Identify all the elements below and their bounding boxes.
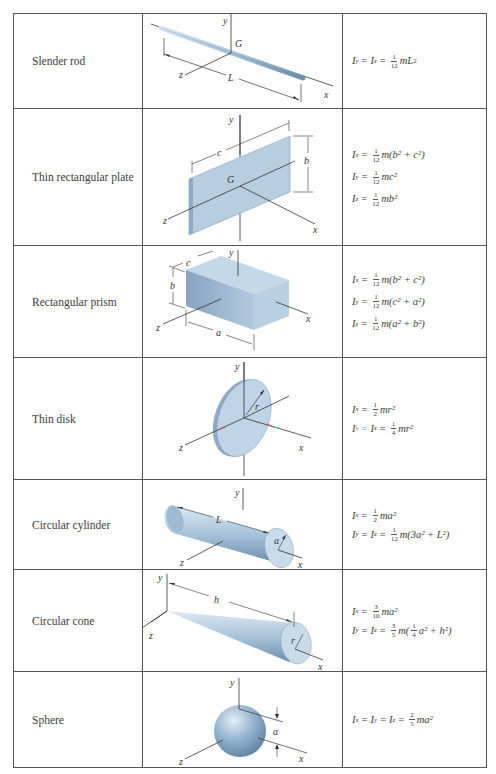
table-row-sphere: Sphere y x z a Ix <box>14 672 486 767</box>
formula-cell: Ix= 112 m(b² + c²) Iy= 112 m(c² + a²) Iz… <box>343 246 486 357</box>
formula-line: Ix= 310 ma² <box>352 602 451 621</box>
svg-text:x: x <box>317 661 323 672</box>
svg-text:z: z <box>179 557 184 568</box>
formula-line: Ix= 112 m(b² + c²) <box>352 144 425 166</box>
formula-cell: Ix= 12 ma² Iy = Iz = 112 m(3a² + L²) <box>343 480 486 569</box>
formula-block: Ix = Iy = Iz = 25 ma² <box>352 709 433 731</box>
formula-cell: Iy = Iz = 112 mL2 <box>343 14 486 108</box>
svg-text:c: c <box>186 257 191 268</box>
formula-block: Ix= 112 m(b² + c²) Iy= 112 mc² Iz= 112 m… <box>352 144 425 210</box>
formula-block: Ix= 310 ma² Iy = Iz = 35 m( 14 a² + h²) <box>352 602 451 640</box>
table-row-thin-disk: Thin disk y z x r <box>14 358 486 480</box>
circular-cylinder-diagram: y L x a z <box>143 480 343 570</box>
formula-block: Ix= 12 ma² Iy = Iz = 112 m(3a² + L²) <box>352 506 449 544</box>
svg-text:L: L <box>227 72 234 83</box>
thin-plate-diagram: y G z x c b <box>143 109 343 246</box>
shape-name: Thin disk <box>32 413 76 425</box>
svg-text:y: y <box>222 15 228 26</box>
shape-name-cell: Slender rod <box>14 14 143 108</box>
svg-text:x: x <box>305 313 311 324</box>
svg-text:y: y <box>234 361 240 372</box>
formula-line: Iy = Iz = 112 mL2 <box>352 50 417 72</box>
formula-line: Iy= 112 mc² <box>352 166 425 188</box>
figure-cell: y x z b c a <box>143 246 343 357</box>
svg-text:G: G <box>235 38 242 49</box>
svg-text:y: y <box>229 677 235 688</box>
svg-text:z: z <box>155 322 160 333</box>
figure-cell: y z x r <box>143 358 343 479</box>
formula-cell: Ix= 12 mr² Iy = Iz = 14 mr² <box>343 358 486 479</box>
slender-rod-diagram: y G z L x <box>143 14 343 109</box>
svg-text:z: z <box>178 442 183 453</box>
svg-text:z: z <box>162 215 167 226</box>
shape-name: Slender rod <box>32 55 85 67</box>
svg-text:c: c <box>217 147 222 158</box>
svg-text:a: a <box>274 535 279 546</box>
svg-text:G: G <box>227 174 234 185</box>
svg-text:r: r <box>291 635 295 646</box>
svg-text:z: z <box>178 69 183 80</box>
svg-text:x: x <box>298 442 304 453</box>
formula-line: Iy = Iz = 14 mr² <box>352 419 413 438</box>
svg-text:x: x <box>323 89 329 100</box>
thin-disk-diagram: y z x r <box>143 358 343 480</box>
shape-name: Rectangular prism <box>32 296 117 308</box>
table-row-circular-cone: Circular cone y z h x r <box>14 570 486 672</box>
rectangular-prism-diagram: y x z b c a <box>143 246 343 358</box>
shape-name: Circular cylinder <box>32 519 110 531</box>
formula-cell: Ix = Iy = Iz = 25 ma² <box>343 672 486 767</box>
formula-block: Ix= 112 m(b² + c²) Iy= 112 m(c² + a²) Iz… <box>352 269 425 335</box>
circular-cone-diagram: y z h x r <box>143 570 343 672</box>
shape-name-cell: Sphere <box>14 672 143 767</box>
table-row-circular-cylinder: Circular cylinder y L x a <box>14 480 486 570</box>
shape-name-cell: Thin disk <box>14 358 143 479</box>
formula-line: Iz= 112 m(a² + b²) <box>352 313 425 335</box>
svg-text:y: y <box>157 572 163 583</box>
formula-cell: Ix= 112 m(b² + c²) Iy= 112 mc² Iz= 112 m… <box>343 109 486 245</box>
formula-line: Ix = Iy = Iz = 25 ma² <box>352 709 433 731</box>
formula-block: Iy = Iz = 112 mL2 <box>352 50 417 72</box>
formula-line: Iy = Iz = 35 m( 14 a² + h²) <box>352 621 451 640</box>
svg-text:x: x <box>298 753 304 764</box>
table-row-slender-rod: Slender rod <box>14 14 486 109</box>
svg-text:L: L <box>215 514 222 525</box>
svg-text:a: a <box>216 327 221 338</box>
shape-name-cell: Rectangular prism <box>14 246 143 357</box>
svg-text:x: x <box>312 224 318 235</box>
formula-line: Iy= 112 m(c² + a²) <box>352 291 425 313</box>
svg-text:z: z <box>178 756 183 767</box>
svg-text:y: y <box>234 487 240 498</box>
svg-text:b: b <box>304 155 309 166</box>
shape-name: Sphere <box>32 714 64 726</box>
formula-block: Ix= 12 mr² Iy = Iz = 14 mr² <box>352 400 413 438</box>
formula-line: Ix= 12 mr² <box>352 400 413 419</box>
svg-text:r: r <box>255 401 259 412</box>
sphere-diagram: y x z a <box>143 672 343 767</box>
formula-line: Iy = Iz = 112 m(3a² + L²) <box>352 525 449 544</box>
svg-text:y: y <box>228 247 234 258</box>
z-axis-label: z <box>149 630 153 641</box>
moments-of-inertia-table: Slender rod <box>13 13 487 768</box>
figure-cell: y G z x c b <box>143 109 343 245</box>
shape-name-cell: Thin rectangular plate <box>14 109 143 245</box>
svg-text:a: a <box>273 726 278 737</box>
fraction: 112 <box>391 53 398 70</box>
formula-line: Iz= 112 mb² <box>352 188 425 210</box>
formula-cell: Ix= 310 ma² Iy = Iz = 35 m( 14 a² + h²) <box>343 570 486 671</box>
formula-line: Ix= 112 m(b² + c²) <box>352 269 425 291</box>
svg-text:h: h <box>214 594 219 605</box>
figure-cell: y x z a <box>143 672 343 767</box>
shape-name-cell: Circular cylinder <box>14 480 143 569</box>
figure-cell: y G z L x <box>143 14 343 108</box>
table-row-rectangular-prism: Rectangular prism y x z b c <box>14 246 486 358</box>
shape-name-cell: Circular cone <box>14 570 143 671</box>
svg-text:b: b <box>170 280 175 291</box>
shape-name: Circular cone <box>32 615 94 627</box>
svg-text:x: x <box>297 559 303 570</box>
figure-cell: y L x a z <box>143 480 343 569</box>
figure-cell: y z h x r z <box>143 570 343 671</box>
shape-name: Thin rectangular plate <box>32 171 134 183</box>
formula-line: Ix= 12 ma² <box>352 506 449 525</box>
svg-text:y: y <box>228 114 234 125</box>
table-row-thin-rectangular-plate: Thin rectangular plate y G z x c <box>14 109 486 246</box>
